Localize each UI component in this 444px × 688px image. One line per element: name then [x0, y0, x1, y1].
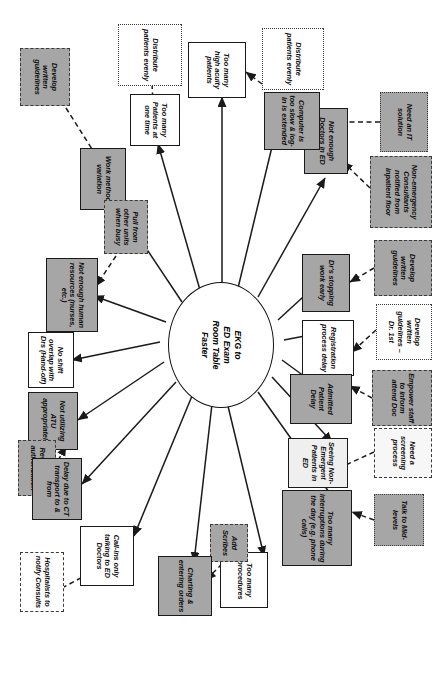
node-label: Distribute patients evenly	[141, 27, 158, 83]
cause-node-admitted-patient-delay: Admitted Patient Delay	[290, 374, 352, 424]
cause-node-too-many-high-acuity-patients: Too many high acuity patients	[188, 42, 246, 98]
cause-node-charting-entering-orders: Charting & entering orders	[158, 556, 212, 616]
cause-node-registration-process-delay: Registration process delay	[302, 320, 354, 376]
node-label: Registration process delay	[319, 323, 336, 373]
solution-node-develop-written-guidelines-dr1st: Develop written guidelines – Dr. 1st	[376, 304, 432, 360]
node-label: Add Scribes	[220, 527, 237, 559]
solution-node-need-it-solution: Need an IT solution	[380, 92, 428, 152]
solution-node-develop-written-guidelines-top: Develop written guidelines	[374, 240, 432, 296]
solution-node-pull-from-other-units: Pull from other units when busy	[104, 200, 148, 254]
cause-node-computer-too-slow: Computer is too slow & log-in is extende…	[264, 92, 320, 150]
node-label: Hospitalists to notify Consults	[33, 555, 50, 609]
solution-node-add-scribes: Add Scribes	[210, 524, 248, 562]
node-label: Delay due to CT transport to & from	[44, 461, 70, 517]
node-label: Need an IT solution	[395, 95, 412, 149]
hub-label: EKG to ED Exam Room Table Faster	[199, 321, 244, 370]
node-label: Call-ins only talking to ED Doctors	[94, 529, 120, 583]
solution-node-need-screening-process: Need a screening process	[374, 428, 432, 478]
node-label: Develop written guidelines	[390, 243, 416, 293]
node-label: Dr's stopping work early	[317, 257, 334, 309]
node-label: Talk to Mid-levels	[390, 497, 407, 543]
solution-node-nonemergency-consultants: Non-emergency Consultants notified from …	[370, 156, 432, 228]
cause-node-seeing-non-emergent-patients: Seeing Non-Emergent Patients in ED	[288, 438, 348, 488]
cause-node-not-enough-human-resources: Not enough human resources (nurses, etc.…	[46, 258, 98, 332]
solution-node-talk-to-mid-levels: Talk to Mid-levels	[374, 494, 424, 546]
cause-node-too-many-patients-at-one-time: Too many Patients at one time	[130, 94, 180, 146]
node-label: No shift overlap with Drs (Hand-off)	[38, 335, 64, 385]
hub-node: EKG to ED Exam Room Table Faster	[168, 282, 274, 408]
node-label: Distribute patients evenly	[284, 31, 301, 87]
solution-node-develop-written-guidelines-lower: Develop written guidelines	[20, 48, 70, 106]
node-label: Empower staff to inform attend Doc	[389, 373, 415, 423]
node-label: Admitted Patient Delay	[308, 377, 334, 421]
node-label: Non-emergency Consultants notified from …	[384, 159, 418, 225]
node-label: Too many interruptions during the day (e…	[300, 493, 334, 563]
solution-node-empower-staff: Empower staff to inform attend Doc	[372, 370, 432, 426]
solution-node-distribute-patients-evenly-upper: Distribute patients evenly	[262, 28, 324, 90]
node-label: Develop written guidelines	[32, 51, 58, 103]
node-label: Too many procedures	[235, 555, 252, 605]
cause-node-call-ins-only-talking-to-ed-doctors: Call-ins only talking to ED Doctors	[80, 526, 134, 586]
diagram-canvas: EKG to ED Exam Room Table Faster Need an…	[0, 0, 444, 688]
node-label: Need a screening process	[390, 431, 416, 475]
node-label: Computer is too slow & log-in is extende…	[279, 95, 305, 147]
node-label: Develop written guidelines – Dr. 1st	[387, 307, 421, 357]
solution-node-distribute-patients-evenly-lower: Distribute patients evenly	[118, 24, 182, 86]
node-label: Not enough human resources (nurses, etc.…	[59, 261, 85, 329]
node-label: Work method variation	[94, 151, 111, 207]
node-label: Charting & entering orders	[176, 559, 193, 613]
cause-node-too-many-interruptions: Too many interruptions during the day (e…	[282, 490, 352, 566]
cause-node-no-shift-overlap: No shift overlap with Drs (Hand-off)	[28, 332, 74, 388]
solution-node-hospitalists-notify-consults: Hospitalists to notify Consults	[20, 552, 64, 612]
cause-node-delay-due-to-ct-transport: Delay due to CT transport to & from	[32, 458, 82, 520]
node-label: Too many Patients at one time	[142, 97, 168, 143]
cause-node-drs-stopping-work-early: Dr's stopping work early	[302, 254, 350, 312]
node-label: Too many high acuity patients	[204, 45, 230, 95]
node-label: Pull from other units when busy	[113, 203, 139, 251]
node-label: Seeing Non-Emergent Patients in ED	[301, 441, 335, 485]
